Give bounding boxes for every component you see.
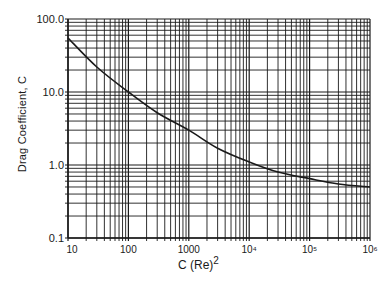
y-axis-label: Drag Coefficient, C <box>16 64 28 184</box>
x-tick-label: 10⁶ <box>362 244 377 255</box>
y-tick-label: 10.0 <box>43 86 64 98</box>
x-tick-label: 10⁵ <box>302 244 317 255</box>
x-tick-label: 100 <box>120 244 137 255</box>
x-axis-label: C (Re)2 <box>178 255 219 272</box>
x-tick-label: 10 <box>66 244 78 255</box>
y-tick-label: 0.1 <box>49 232 64 244</box>
y-tick-label: 1.0 <box>49 159 64 171</box>
x-axis-label-exponent: 2 <box>213 255 219 266</box>
x-tick-label: 10⁴ <box>241 244 256 255</box>
x-tick-label: 1000 <box>178 244 201 255</box>
y-tick-label: 100.0 <box>36 13 64 25</box>
chart-plot: 0.11.010.0100.010100100010⁴10⁵10⁶ <box>0 0 392 283</box>
x-axis-label-text: C (Re) <box>178 258 213 272</box>
